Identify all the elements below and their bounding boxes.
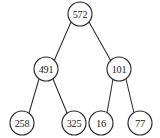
tree-node-101: 101 <box>107 57 131 81</box>
tree-node-77: 77 <box>128 111 152 135</box>
node-label-572: 572 <box>73 9 88 20</box>
tree-edge-n-101-to-n-16 <box>107 79 113 113</box>
tree-edge-n-101-to-n-77 <box>126 79 134 113</box>
tree-node-572: 572 <box>68 2 92 26</box>
tree-node-491: 491 <box>34 57 58 81</box>
tree-edge-n-491-to-n-258 <box>29 79 39 113</box>
tree-node-258: 258 <box>10 111 34 135</box>
tree-edge-root-to-n-101 <box>89 22 111 61</box>
node-label-16: 16 <box>96 118 106 129</box>
node-label-325: 325 <box>67 118 82 129</box>
tree-nodes-group: 5724911012583251677 <box>10 2 152 135</box>
tree-node-16: 16 <box>89 111 113 135</box>
tree-canvas: 5724911012583251677 <box>0 0 160 138</box>
node-label-101: 101 <box>112 64 127 75</box>
node-label-491: 491 <box>39 64 54 75</box>
tree-node-325: 325 <box>62 111 86 135</box>
node-label-258: 258 <box>15 118 30 129</box>
tree-edge-n-491-to-n-325 <box>53 79 67 113</box>
node-label-77: 77 <box>135 118 145 129</box>
binary-tree-figure: 5724911012583251677 <box>0 0 160 138</box>
tree-edge-root-to-n-491 <box>54 22 71 61</box>
